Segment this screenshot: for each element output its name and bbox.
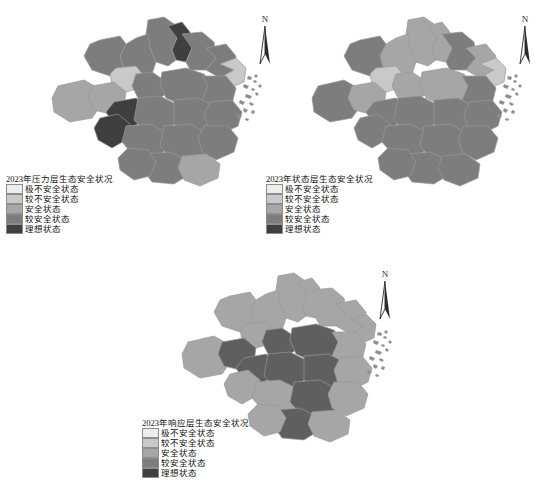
legend-label-class2: 较不安全状态 [25, 195, 79, 204]
legend-swatch-class3 [6, 204, 23, 214]
legend-swatch-class4 [266, 214, 283, 224]
legend-state: 2023年状态层生态安全状况 极不安全状态 较不安全状态 安全状态 较安全状态 … [266, 174, 373, 234]
legend-item: 较安全状态 [142, 459, 249, 469]
legend-label-class4: 较安全状态 [161, 459, 206, 468]
north-arrow-label: N [512, 14, 538, 24]
choropleth-map-pressure [40, 14, 280, 194]
north-arrow-pressure: N [252, 14, 278, 66]
legend-item: 较安全状态 [266, 215, 373, 225]
legend-item: 较安全状态 [6, 215, 113, 225]
legend-label-class3: 安全状态 [161, 449, 197, 458]
legend-item: 理想状态 [266, 225, 373, 235]
legend-item: 安全状态 [142, 449, 249, 459]
legend-label-class5: 理想状态 [161, 469, 197, 478]
legend-label-class5: 理想状态 [285, 225, 321, 234]
legend-item: 极不安全状态 [6, 185, 113, 195]
legend-label-class2: 较不安全状态 [161, 439, 215, 448]
legend-swatch-class4 [6, 214, 23, 224]
legend-swatch-class2 [142, 438, 159, 448]
choropleth-map-state [300, 14, 540, 194]
legend-label-class1: 极不安全状态 [25, 185, 79, 194]
legend-swatch-class5 [266, 224, 283, 234]
north-arrow-label: N [372, 269, 398, 279]
legend-item: 理想状态 [6, 225, 113, 235]
legend-label-class4: 较安全状态 [285, 215, 330, 224]
map-panel-state: N 2023年状态层生态安全状况 极不安全状态 较不安全状态 安全状态 较安全状… [300, 14, 540, 194]
legend-item: 安全状态 [6, 205, 113, 215]
legend-title: 2023年响应层生态安全状况 [142, 418, 249, 428]
legend-item: 较不安全状态 [142, 439, 249, 449]
legend-label-class3: 安全状态 [285, 205, 321, 214]
legend-item: 极不安全状态 [266, 185, 373, 195]
legend-item: 较不安全状态 [266, 195, 373, 205]
north-arrow-response: N [372, 269, 398, 321]
legend-item: 较不安全状态 [6, 195, 113, 205]
legend-item: 理想状态 [142, 469, 249, 479]
north-arrow-label: N [252, 14, 278, 24]
legend-swatch-class1 [6, 184, 23, 194]
legend-swatch-class2 [6, 194, 23, 204]
north-arrow-icon [372, 279, 398, 321]
legend-swatch-class1 [142, 428, 159, 438]
legend-swatch-class2 [266, 194, 283, 204]
legend-label-class1: 极不安全状态 [285, 185, 339, 194]
legend-label-class4: 较安全状态 [25, 215, 70, 224]
legend-label-class3: 安全状态 [25, 205, 61, 214]
north-arrow-state: N [512, 14, 538, 66]
legend-title: 2023年状态层生态安全状况 [266, 174, 373, 184]
map-panel-response: N 2023年响应层生态安全状况 极不安全状态 较不安全状态 安全状态 较安全状… [170, 270, 410, 450]
legend-item: 安全状态 [266, 205, 373, 215]
legend-pressure: 2023年压力层生态安全状况 极不安全状态 较不安全状态 安全状态 较安全状态 … [6, 174, 113, 234]
legend-swatch-class5 [142, 468, 159, 478]
legend-response: 2023年响应层生态安全状况 极不安全状态 较不安全状态 安全状态 较安全状态 … [142, 418, 249, 478]
legend-item: 极不安全状态 [142, 429, 249, 439]
legend-title: 2023年压力层生态安全状况 [6, 174, 113, 184]
legend-swatch-class5 [6, 224, 23, 234]
legend-swatch-class4 [142, 458, 159, 468]
north-arrow-icon [512, 24, 538, 66]
north-arrow-icon [252, 24, 278, 66]
legend-swatch-class1 [266, 184, 283, 194]
legend-swatch-class3 [142, 448, 159, 458]
legend-label-class2: 较不安全状态 [285, 195, 339, 204]
legend-label-class1: 极不安全状态 [161, 429, 215, 438]
map-panel-pressure: N 2023年压力层生态安全状况 极不安全状态 较不安全状态 安全状态 较安全状… [40, 14, 280, 194]
legend-swatch-class3 [266, 204, 283, 214]
legend-label-class5: 理想状态 [25, 225, 61, 234]
